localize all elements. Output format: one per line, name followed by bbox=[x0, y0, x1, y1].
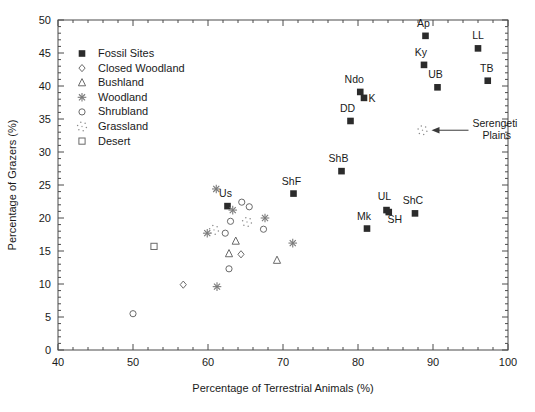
point-UB bbox=[434, 84, 441, 91]
point-Ky bbox=[421, 62, 428, 69]
point-label-Ndo: Ndo bbox=[345, 73, 364, 85]
point-desert bbox=[151, 243, 157, 249]
point-woodland bbox=[228, 206, 237, 215]
legend-label-woodland: Woodland bbox=[98, 91, 147, 103]
point-label-DD: DD bbox=[340, 102, 356, 114]
point-woodland bbox=[213, 282, 222, 291]
point-LL bbox=[475, 45, 482, 52]
point-Ndo bbox=[357, 89, 364, 96]
y-tick-label: 50 bbox=[39, 14, 51, 26]
point-label-Ap: Ap bbox=[417, 17, 430, 29]
point-Us bbox=[224, 203, 231, 210]
legend-marker-bushland bbox=[78, 79, 85, 86]
point-shrubland bbox=[222, 230, 228, 236]
point-closed-woodland bbox=[180, 281, 186, 288]
legend-marker-closed-woodland bbox=[79, 65, 85, 72]
legend-marker-woodland bbox=[78, 93, 87, 102]
legend-label-bushland: Bushland bbox=[98, 76, 144, 88]
plot-svg: 405060708090100 05101520253035404550 Per… bbox=[0, 0, 535, 412]
point-bushland bbox=[225, 250, 232, 257]
legend: Fossil SitesClosed WoodlandBushlandWoodl… bbox=[77, 47, 185, 147]
annotation-layer: SerengetiPlains bbox=[432, 117, 518, 141]
legend-label-grassland: Grassland bbox=[98, 120, 148, 132]
legend-marker-desert bbox=[79, 138, 85, 144]
point-shrubland bbox=[246, 204, 252, 210]
point-bushland bbox=[273, 256, 280, 263]
point-label-Ky: Ky bbox=[415, 46, 428, 58]
y-tick-label: 40 bbox=[39, 80, 51, 92]
point-ShC bbox=[412, 210, 419, 217]
y-tick-label: 0 bbox=[45, 344, 51, 356]
x-tick-label: 40 bbox=[52, 356, 64, 368]
point-label-ShC: ShC bbox=[403, 194, 424, 206]
point-label-LL: LL bbox=[472, 29, 484, 41]
point-label-Mk: Mk bbox=[357, 210, 372, 222]
point-labels-layer: ApLLKyTBUBNdoKDDShBShFUsULShCSHMk bbox=[219, 17, 493, 225]
legend-marker-shrubland bbox=[79, 109, 85, 115]
x-axis-title: Percentage of Terrestrial Animals (%) bbox=[192, 382, 373, 394]
point-label-K: K bbox=[368, 92, 375, 104]
annotation-text-line2: Plains bbox=[483, 129, 512, 141]
y-tick-label: 30 bbox=[39, 146, 51, 158]
y-axis-title: Percentage of Grazers (%) bbox=[6, 120, 18, 251]
point-grassland bbox=[209, 225, 219, 235]
x-tick-label: 70 bbox=[277, 356, 289, 368]
legend-marker-grassland bbox=[77, 121, 87, 131]
point-bushland bbox=[232, 237, 239, 244]
point-label-ShB: ShB bbox=[329, 152, 349, 164]
x-tick-label: 60 bbox=[202, 356, 214, 368]
point-label-ShF: ShF bbox=[282, 175, 301, 187]
scatter-chart: 405060708090100 05101520253035404550 Per… bbox=[0, 0, 535, 412]
annotation-arrow-head bbox=[432, 127, 440, 133]
point-shrubland bbox=[260, 226, 266, 232]
point-ShF bbox=[290, 190, 297, 197]
y-tick-label: 5 bbox=[45, 311, 51, 323]
point-shrubland bbox=[130, 311, 136, 317]
point-woodland bbox=[261, 214, 270, 223]
point-shrubland bbox=[227, 218, 233, 224]
legend-label-closed-woodland: Closed Woodland bbox=[98, 62, 185, 74]
point-TB bbox=[484, 77, 491, 84]
point-DD bbox=[347, 118, 354, 125]
x-tick-label: 100 bbox=[499, 356, 517, 368]
point-label-UL: UL bbox=[378, 190, 392, 202]
point-Ap bbox=[422, 33, 429, 40]
legend-label-fossil-sites: Fossil Sites bbox=[98, 47, 155, 59]
x-tick-label: 80 bbox=[352, 356, 364, 368]
legend-label-shrubland: Shrubland bbox=[98, 105, 148, 117]
y-tick-label: 15 bbox=[39, 245, 51, 257]
x-tick-label: 50 bbox=[127, 356, 139, 368]
point-shrubland bbox=[239, 199, 245, 205]
point-K bbox=[361, 95, 368, 102]
point-label-SH: SH bbox=[387, 213, 402, 225]
x-tick-label: 90 bbox=[427, 356, 439, 368]
y-tick-label: 20 bbox=[39, 212, 51, 224]
y-tick-label: 35 bbox=[39, 113, 51, 125]
y-tick-label: 10 bbox=[39, 278, 51, 290]
point-Mk bbox=[364, 225, 371, 232]
annotation-text-line1: Serengeti bbox=[473, 117, 518, 129]
point-label-TB: TB bbox=[480, 62, 493, 74]
point-label-UB: UB bbox=[428, 68, 443, 80]
point-woodland bbox=[288, 239, 297, 248]
legend-label-desert: Desert bbox=[98, 135, 130, 147]
legend-marker-fossil-sites bbox=[79, 50, 86, 57]
point-label-Us: Us bbox=[219, 187, 232, 199]
point-grassland bbox=[242, 217, 252, 227]
point-closed-woodland bbox=[238, 251, 244, 258]
y-tick-label: 45 bbox=[39, 47, 51, 59]
point-ShB bbox=[338, 168, 345, 175]
point-grassland bbox=[417, 125, 427, 135]
point-shrubland bbox=[226, 266, 232, 272]
y-tick-label: 25 bbox=[39, 179, 51, 191]
